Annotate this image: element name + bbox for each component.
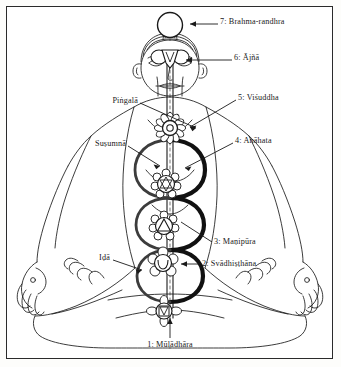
label-brahma-randhra: 7: Brahma-randhra bbox=[220, 17, 285, 26]
chakra-illustration bbox=[0, 0, 341, 367]
label-svadhisthana: 2: Svādhiṣṭhāna bbox=[202, 259, 256, 268]
chakra-node-manipura bbox=[149, 211, 179, 240]
label-pingala: Piṅgalā bbox=[58, 96, 138, 105]
chakra-node-anahata bbox=[151, 169, 181, 198]
leader-ida bbox=[113, 260, 142, 270]
label-visuddha: 5: Viśuddha bbox=[238, 93, 279, 102]
label-ajna: 6: Ājñā bbox=[234, 53, 259, 62]
label-ida: Iḍā bbox=[60, 253, 110, 262]
label-anahata: 4: Anāhata bbox=[235, 136, 272, 145]
chakra-diagram-page: 7: Brahma-randhra 6: Ājñā 5: Viśuddha 4:… bbox=[0, 0, 341, 367]
label-manipura: 3: Maṇipūra bbox=[214, 237, 256, 246]
label-susumna: Suṣumnā bbox=[38, 139, 126, 148]
leader-visuddha bbox=[190, 100, 236, 127]
chakra-node-brahma-randhra bbox=[158, 13, 183, 38]
chakra-node-visuddha bbox=[154, 112, 185, 143]
chakra-node-ajna bbox=[151, 50, 189, 68]
chakra-nodes bbox=[147, 13, 190, 327]
label-muladhara: 1: Mūlādhāra bbox=[120, 340, 220, 349]
